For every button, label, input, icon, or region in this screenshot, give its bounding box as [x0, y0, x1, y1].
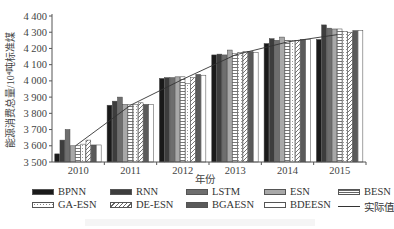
bars-group — [55, 25, 363, 162]
bar-rnn-2015 — [322, 25, 327, 162]
x-tick-label: 2012 — [172, 165, 193, 176]
bar-besn-2011 — [128, 104, 133, 162]
legend-label: 实际值 — [364, 199, 394, 214]
legend-label: BPNN — [58, 186, 86, 197]
y-tick-label: 3 500 — [23, 157, 47, 168]
bar-lstm-2014 — [275, 40, 280, 162]
bar-ga-esn-2014 — [290, 40, 295, 162]
bar-rnn-2012 — [165, 78, 170, 162]
bar-besn-2010 — [76, 146, 81, 162]
legend-item-esn: ESN — [264, 186, 310, 197]
legend-swatch — [186, 189, 208, 195]
bar-de-esn-2011 — [138, 103, 143, 162]
x-tick-label: 2015 — [329, 165, 350, 176]
x-tick-label: 2014 — [277, 165, 299, 176]
bar-bdeesn-2011 — [149, 104, 154, 162]
legend-swatch — [264, 202, 286, 208]
bar-esn-2014 — [280, 37, 285, 162]
y-tick-label: 3 600 — [23, 140, 47, 151]
legend-swatch — [32, 189, 54, 195]
y-axis-label: 能源消费总量/10⁴吨标准煤 — [4, 32, 16, 148]
bar-ga-esn-2012 — [185, 83, 190, 162]
y-tick-label: 3 900 — [23, 92, 47, 103]
bar-lstm-2015 — [327, 28, 332, 162]
x-tick-label: 2011 — [120, 165, 141, 176]
bar-besn-2013 — [233, 53, 238, 162]
bar-bdeesn-2010 — [96, 145, 101, 162]
bar-esn-2015 — [332, 29, 337, 162]
legend-label: DE-ESN — [136, 199, 173, 210]
bar-besn-2014 — [285, 40, 290, 162]
bar-bdeesn-2012 — [201, 75, 206, 162]
legend-label: GA-ESN — [58, 199, 97, 210]
legend-item-bgaesn: BGAESN — [186, 199, 254, 210]
bar-esn-2010 — [70, 146, 75, 162]
legend-item-rnn: RNN — [110, 186, 158, 197]
bar-rnn-2013 — [217, 54, 222, 162]
bar-rnn-2011 — [112, 101, 117, 162]
bar-lstm-2010 — [65, 130, 70, 162]
legend-item-bpnn: BPNN — [32, 186, 86, 197]
bar-de-esn-2014 — [295, 40, 300, 162]
bar-bdeesn-2013 — [253, 53, 258, 163]
bar-esn-2012 — [175, 77, 180, 162]
legend-swatch — [338, 206, 360, 207]
legend-swatch — [32, 202, 54, 208]
y-tick-label: 3 800 — [23, 108, 47, 119]
bar-de-esn-2015 — [348, 32, 353, 162]
bar-besn-2015 — [337, 29, 342, 162]
y-tick-label: 3 700 — [23, 124, 47, 135]
bar-besn-2012 — [180, 77, 185, 162]
bar-de-esn-2013 — [243, 52, 248, 162]
bar-bgaesn-2013 — [248, 52, 253, 162]
bar-ga-esn-2013 — [238, 53, 243, 163]
legend-label: LSTM — [212, 186, 240, 197]
y-tick-label: 4 300 — [23, 27, 47, 38]
bar-de-esn-2010 — [86, 140, 91, 162]
legend-item-besn: BESN — [338, 186, 391, 197]
legend-item-de-esn: DE-ESN — [110, 199, 173, 210]
bar-de-esn-2012 — [191, 78, 196, 162]
legend-item-lstm: LSTM — [186, 186, 240, 197]
bar-bgaesn-2011 — [144, 104, 149, 162]
bar-bgaesn-2014 — [301, 40, 306, 162]
bar-ga-esn-2015 — [342, 31, 347, 162]
bar-lstm-2012 — [170, 78, 175, 162]
legend-swatch — [338, 189, 360, 195]
legend-label: BGAESN — [212, 199, 254, 210]
bar-bpnn-2014 — [264, 44, 269, 162]
legend-swatch — [110, 189, 132, 195]
bar-rnn-2014 — [269, 39, 274, 162]
legend-label: RNN — [136, 186, 158, 197]
bar-bgaesn-2015 — [353, 31, 358, 162]
bar-bpnn-2013 — [212, 55, 217, 162]
legend-swatch — [186, 202, 208, 208]
legend-label: BDEESN — [290, 199, 331, 210]
legend-item-实际值: 实际值 — [338, 199, 394, 214]
y-tick-label: 4 400 — [23, 11, 47, 22]
bar-bpnn-2010 — [55, 154, 60, 162]
legend-swatch — [264, 189, 286, 195]
bar-lstm-2011 — [118, 97, 123, 162]
legend-label: BESN — [364, 186, 391, 197]
bar-rnn-2010 — [60, 140, 65, 162]
x-tick-label: 2013 — [225, 165, 246, 176]
bar-bgaesn-2012 — [196, 74, 201, 162]
bar-bdeesn-2015 — [358, 31, 363, 162]
x-axis-label: 年份 — [195, 173, 216, 185]
legend-label: ESN — [290, 186, 310, 197]
y-tick-label: 4 200 — [23, 43, 47, 54]
bar-ga-esn-2011 — [133, 104, 138, 162]
y-tick-label: 4 100 — [23, 59, 47, 70]
x-tick-label: 2010 — [68, 165, 89, 176]
legend-item-bdeesn: BDEESN — [264, 199, 331, 210]
bar-esn-2013 — [227, 50, 232, 162]
legend-swatch — [110, 202, 132, 208]
figure-caption — [85, 219, 315, 226]
bar-bdeesn-2014 — [306, 40, 311, 162]
y-tick-label: 4 000 — [23, 75, 47, 86]
bar-esn-2011 — [123, 104, 128, 162]
bar-bpnn-2011 — [107, 105, 112, 162]
bar-bpnn-2015 — [316, 40, 321, 162]
bar-bgaesn-2010 — [91, 145, 96, 162]
